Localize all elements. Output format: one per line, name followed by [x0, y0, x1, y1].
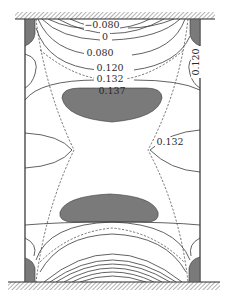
shaded-bottom-left-corner: [25, 258, 35, 282]
shaded-bottom-right-corner: [189, 257, 200, 282]
shaded-lower-lobe: [60, 194, 158, 222]
contour-labels: −0.080 0 0.080 0.120 0.132 0.137 0.120 0…: [84, 19, 201, 147]
contour-label-neg0080: −0.080: [84, 19, 119, 30]
contour-label-0132: 0.132: [96, 73, 123, 84]
contour-diagram: −0.080 0 0.080 0.120 0.132 0.137 0.120 0…: [0, 0, 228, 297]
contour-label-0132-right: 0.132: [156, 136, 183, 147]
shaded-top-left-corner: [25, 19, 35, 46]
contour-label-0120: 0.120: [96, 62, 123, 73]
contour-label-0: 0: [102, 31, 108, 42]
contour-label-0137: 0.137: [98, 85, 125, 96]
top-fixed-wall: [15, 12, 215, 19]
contour-label-0080: 0.080: [86, 47, 113, 58]
bottom-hatch: [8, 282, 220, 290]
top-hatch: [15, 12, 215, 19]
contour-label-0120-vertical: 0.120: [190, 48, 201, 75]
bottom-fixed-wall: [8, 282, 220, 290]
shaded-top-right-corner: [190, 19, 200, 46]
bottom-contour-family: [25, 222, 200, 282]
